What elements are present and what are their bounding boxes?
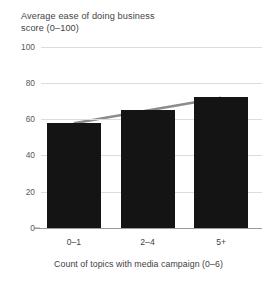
plot-area: 020406080100 bbox=[41, 47, 262, 229]
chart-container: Average ease of doing business score (0–… bbox=[0, 0, 277, 282]
y-axis-tick-mark bbox=[35, 228, 40, 229]
x-axis-line bbox=[34, 228, 262, 229]
bar bbox=[194, 97, 248, 228]
x-axis-category-label: 0–1 bbox=[67, 237, 81, 247]
gridline bbox=[41, 83, 262, 84]
y-axis-tick-label: 20 bbox=[26, 187, 35, 197]
y-axis-tick-label: 40 bbox=[26, 150, 35, 160]
y-axis-tick-label: 60 bbox=[26, 114, 35, 124]
y-axis-tick-label: 80 bbox=[26, 78, 35, 88]
y-axis-tick-label: 0 bbox=[30, 223, 35, 233]
x-axis-category-label: 2–4 bbox=[140, 237, 154, 247]
x-axis-category-label: 5+ bbox=[216, 237, 226, 247]
y-axis-tick-label: 100 bbox=[21, 42, 35, 52]
bar bbox=[47, 123, 101, 228]
bar bbox=[121, 110, 175, 228]
x-axis-title: Count of topics with media campaign (0–6… bbox=[0, 259, 277, 269]
chart-title: Average ease of doing business score (0–… bbox=[21, 10, 221, 34]
gridline bbox=[41, 47, 262, 48]
